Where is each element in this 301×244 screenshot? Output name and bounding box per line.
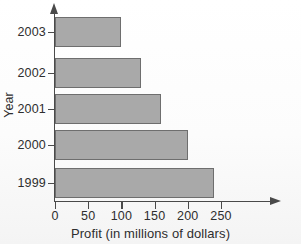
x-tick-0 xyxy=(55,202,56,209)
y-tick-label-2000: 2000 xyxy=(0,138,46,152)
y-tick-2001 xyxy=(48,109,55,110)
y-tick-label-1999: 1999 xyxy=(0,176,46,190)
x-tick-50 xyxy=(88,202,89,209)
y-tick-2000 xyxy=(48,145,55,146)
y-tick-2002 xyxy=(48,73,55,74)
bar-2001 xyxy=(55,94,161,124)
bar-2003 xyxy=(55,17,121,47)
y-axis-arrow-icon xyxy=(50,3,58,14)
x-tick-150 xyxy=(155,202,156,209)
x-axis-title: Profit (in millions of dollars) xyxy=(0,226,301,241)
y-tick-label-2002: 2002 xyxy=(0,66,46,80)
x-axis-arrow-icon xyxy=(270,197,281,205)
bar-2002 xyxy=(55,58,141,88)
x-tick-200 xyxy=(188,202,189,209)
y-tick-label-2003: 2003 xyxy=(0,25,46,39)
bar-2000 xyxy=(55,130,188,160)
y-axis-title: Year xyxy=(2,80,16,130)
x-tick-label-250: 250 xyxy=(201,209,241,223)
x-tick-100 xyxy=(121,202,122,209)
bar-1999 xyxy=(55,168,214,198)
x-axis-line xyxy=(54,201,272,202)
bar-chart: 2003 2002 2001 2000 1999 0 50 100 150 20… xyxy=(0,0,301,244)
y-tick-1999 xyxy=(48,183,55,184)
y-tick-2003 xyxy=(48,32,55,33)
x-tick-250 xyxy=(221,202,222,209)
